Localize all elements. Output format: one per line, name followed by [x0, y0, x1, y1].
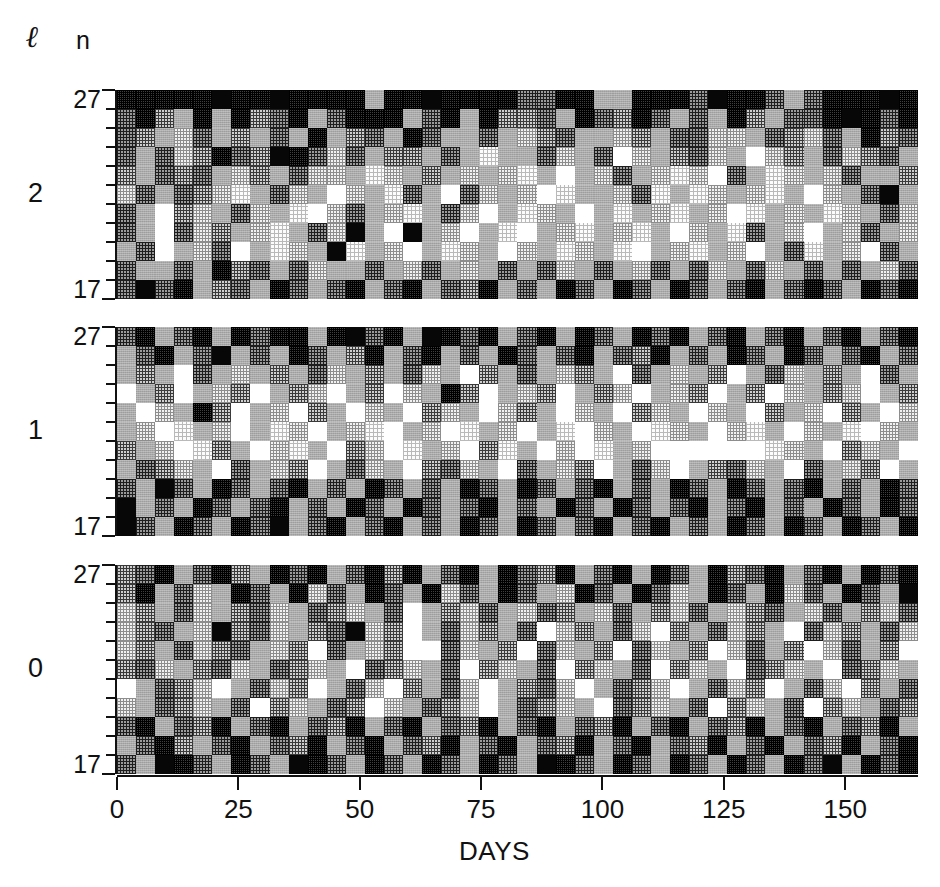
heatmap-cell — [250, 517, 269, 536]
heatmap-cell — [270, 166, 289, 185]
y-axis-minor-tick — [106, 184, 115, 186]
heatmap-cell — [537, 422, 556, 441]
heatmap-cell — [613, 166, 632, 185]
heatmap-cell — [479, 660, 498, 679]
heatmap-cell — [517, 204, 536, 223]
heatmap-cell — [651, 90, 670, 109]
heatmap-cell — [708, 584, 727, 603]
heatmap-cell — [403, 109, 422, 128]
heatmap-cell — [193, 261, 212, 280]
heatmap-cell — [422, 185, 441, 204]
heatmap-cell — [212, 185, 231, 204]
heatmap-cell — [746, 498, 765, 517]
heatmap-cell — [842, 460, 861, 479]
heatmap-cell — [212, 498, 231, 517]
heatmap-cell — [327, 90, 346, 109]
heatmap-cell — [270, 365, 289, 384]
heatmap-cell — [670, 422, 689, 441]
heatmap-cell — [880, 261, 899, 280]
heatmap-cell — [670, 498, 689, 517]
heatmap-cell — [479, 327, 498, 346]
heatmap-cell — [765, 641, 784, 660]
heatmap-cell — [460, 90, 479, 109]
heatmap-cell — [422, 261, 441, 280]
heatmap-cell — [594, 327, 613, 346]
heatmap-cell — [193, 147, 212, 166]
heatmap-cell — [746, 384, 765, 403]
heatmap-cell — [308, 584, 327, 603]
heatmap-cell — [479, 479, 498, 498]
heatmap-cell — [174, 584, 193, 603]
heatmap-cell — [479, 365, 498, 384]
heatmap-cell — [670, 660, 689, 679]
heatmap-cell — [708, 698, 727, 717]
heatmap-cell — [842, 147, 861, 166]
heatmap-cell — [804, 717, 823, 736]
heatmap-cell — [594, 261, 613, 280]
heatmap-cell — [498, 641, 517, 660]
heatmap-cell — [861, 641, 880, 660]
heatmap-cell — [308, 128, 327, 147]
heatmap-cell — [346, 641, 365, 660]
heatmap-cell — [842, 698, 861, 717]
heatmap-cell — [861, 755, 880, 774]
heatmap-cell — [403, 422, 422, 441]
heatmap-cell — [784, 223, 803, 242]
heatmap-cell — [632, 584, 651, 603]
heatmap-cell — [689, 280, 708, 299]
heatmap-cell — [155, 223, 174, 242]
heatmap-cell — [861, 584, 880, 603]
heatmap-cell — [422, 441, 441, 460]
heatmap-cell — [727, 346, 746, 365]
heatmap-cell — [517, 147, 536, 166]
heatmap-cell — [422, 365, 441, 384]
heatmap-cell — [479, 441, 498, 460]
heatmap-cell — [765, 90, 784, 109]
heatmap-cell — [613, 441, 632, 460]
heatmap-cell — [117, 90, 136, 109]
heatmap-cell — [670, 460, 689, 479]
heatmap-cell — [537, 185, 556, 204]
heatmap-cell — [174, 498, 193, 517]
heatmap-cell — [575, 698, 594, 717]
heatmap-cell — [384, 622, 403, 641]
heatmap-cell — [441, 204, 460, 223]
heatmap-cell — [823, 346, 842, 365]
heatmap-cell — [784, 603, 803, 622]
heatmap-cell — [136, 166, 155, 185]
heatmap-cell — [823, 603, 842, 622]
heatmap-cell — [632, 422, 651, 441]
heatmap-cell — [765, 204, 784, 223]
heatmap-cell — [670, 166, 689, 185]
heatmap-cell — [384, 698, 403, 717]
heatmap-cell — [308, 565, 327, 584]
heatmap-cell — [651, 603, 670, 622]
heatmap-cell — [575, 622, 594, 641]
heatmap-cell — [537, 327, 556, 346]
heatmap-cell — [823, 204, 842, 223]
heatmap-cell — [651, 479, 670, 498]
heatmap-cell — [212, 679, 231, 698]
heatmap-cell — [117, 242, 136, 261]
heatmap-cell — [460, 460, 479, 479]
heatmap-cell — [861, 223, 880, 242]
heatmap-cell — [727, 603, 746, 622]
heatmap-cell — [861, 327, 880, 346]
heatmap-cell — [632, 403, 651, 422]
heatmap-cell — [823, 441, 842, 460]
heatmap-cell — [651, 280, 670, 299]
heatmap-cell — [556, 641, 575, 660]
heatmap-cell — [899, 441, 918, 460]
heatmap-cell — [823, 517, 842, 536]
heatmap-cell — [594, 717, 613, 736]
heatmap-cell — [727, 128, 746, 147]
heatmap-cell — [804, 584, 823, 603]
heatmap-cell — [422, 479, 441, 498]
heatmap-cell — [727, 498, 746, 517]
heatmap-cell — [136, 280, 155, 299]
heatmap-cell — [556, 736, 575, 755]
heatmap-cell — [594, 384, 613, 403]
heatmap-cell — [384, 479, 403, 498]
heatmap-plot-area — [117, 565, 918, 774]
x-axis-tick — [359, 777, 361, 790]
